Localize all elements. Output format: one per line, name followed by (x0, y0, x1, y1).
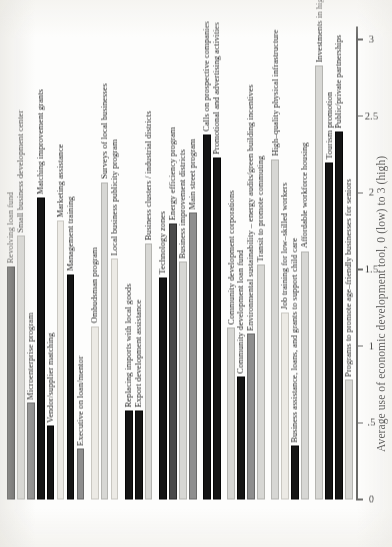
axis-tick-label: 0 (355, 494, 389, 505)
bar-category-label: Community development corporations (227, 190, 236, 324)
bar (237, 376, 244, 499)
bar-category-label: Executive on loan/mentor (76, 355, 85, 445)
bar-category-label: Transit to promote commuting (256, 155, 265, 261)
bar-category-label: Local business publicity program (110, 139, 119, 255)
bar-chart-plot: 0.511.522.53 Revolving loan fundSmall bu… (0, 0, 392, 547)
bar (271, 159, 278, 499)
bar (7, 266, 14, 499)
bar (125, 410, 132, 499)
bar-category-label: Energy efficiency program (168, 126, 177, 220)
bar-category-label: Main street program (188, 138, 197, 209)
bar-category-label: Ombudsman program (90, 247, 99, 323)
bar-category-label: Public/private partnerships (334, 34, 343, 128)
scanned-chart-page: 0.511.522.53 Revolving loan fundSmall bu… (0, 0, 392, 547)
bar-category-label: Management training (66, 196, 75, 271)
bar (203, 134, 210, 499)
bar (57, 220, 64, 499)
bar (247, 333, 254, 499)
axis-tick-label: 2.5 (355, 110, 389, 121)
bar-category-label: Small business development center (16, 110, 25, 233)
bar (17, 235, 24, 499)
bar (27, 402, 34, 499)
bar (135, 410, 142, 499)
bar-category-label: Marketing assistance (56, 144, 65, 217)
bar-category-label: Technology zones (158, 211, 167, 274)
bar (227, 327, 234, 499)
bar (281, 312, 288, 499)
bar (301, 251, 308, 499)
bar-category-label: Community development loan fund (236, 249, 245, 373)
bar (291, 445, 298, 499)
bar-category-label: Environmental sustainability – energy au… (246, 84, 255, 330)
bar (111, 258, 118, 499)
bar (315, 65, 322, 499)
bar-category-label: Microenterprise program (26, 312, 35, 399)
bar (325, 162, 332, 499)
bar (345, 379, 352, 499)
bar-category-label: Replacing imports with local goods (124, 283, 133, 407)
bar (91, 326, 98, 499)
bar (101, 182, 108, 499)
rotated-chart-frame: 0.511.522.53 Revolving loan fundSmall bu… (0, 0, 392, 547)
bar (37, 197, 44, 499)
bar-category-label: Business clusters / industrial districts (144, 110, 153, 239)
bar (189, 212, 196, 499)
bar-category-label: Programs to promote age–friendly busines… (344, 178, 353, 376)
bar (47, 425, 54, 499)
bar (159, 277, 166, 499)
bar (145, 243, 152, 499)
bar-category-label: Vendor/supplier matching (46, 332, 55, 422)
bar (179, 261, 186, 499)
bar-category-label: Tourism promotion (325, 91, 334, 158)
bar-category-label: Export development assistance (134, 299, 143, 407)
bar-category-label: Investments in high quality of life (315, 0, 324, 62)
bar-category-label: Business improvement districts (178, 149, 187, 258)
bar-category-label: Job training for low–skilled workers (280, 182, 289, 309)
bar (169, 223, 176, 499)
bar-category-label: Business assistance, loans, and grants t… (290, 237, 299, 442)
bar (67, 274, 74, 499)
bar-category-label: Matching improvement grants (36, 89, 45, 194)
bar (213, 157, 220, 499)
bar-category-label: Affordable workforce housing (300, 142, 309, 248)
bar (257, 264, 264, 499)
axis-tick-label: 3 (355, 34, 389, 45)
bar (77, 448, 84, 499)
bar-category-label: Calls on prospective companies (202, 21, 211, 132)
bar-category-label: Surveys of local businesses (100, 83, 109, 179)
bar-category-label: High–quality physical infrastructure (271, 29, 280, 155)
bar-category-label: Promotional and advertising activities (212, 22, 221, 154)
bar (335, 131, 342, 499)
value-axis-line (356, 26, 358, 500)
axis-title: Average use of economic development tool… (375, 156, 387, 452)
bar-category-label: Revolving loan fund (6, 191, 15, 263)
